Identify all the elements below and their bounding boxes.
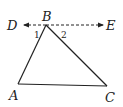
triangle-diagram: B D E A C 1 2 [0, 0, 123, 107]
segment-bc [46, 25, 107, 86]
segment-ac [18, 84, 107, 86]
angle-2-label: 2 [61, 30, 67, 40]
label-b: B [41, 9, 52, 24]
label-a: A [8, 88, 18, 103]
segment-ab [18, 25, 46, 84]
label-d: D [6, 18, 18, 33]
label-e: E [105, 18, 116, 33]
angle-1-label: 1 [34, 30, 40, 40]
label-c: C [105, 90, 115, 105]
